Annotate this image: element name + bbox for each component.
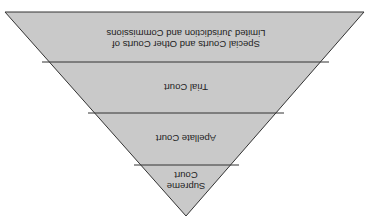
tier-supreme-court: Supreme Court	[146, 170, 226, 192]
tier-label-line: Limited Jurisdiction and Commissions	[66, 28, 306, 39]
tier-label-line: Special Courts and Other Courts of	[66, 39, 306, 50]
court-hierarchy-diagram: Supreme Court Apellate Court Trial Court…	[0, 0, 367, 224]
tier-appellate-court: Apellate Court	[126, 133, 246, 144]
tier-special-courts: Special Courts and Other Courts of Limit…	[66, 28, 306, 50]
tier-label-line: Trial Court	[126, 82, 246, 93]
tier-trial-court: Trial Court	[126, 82, 246, 93]
tier-label-line: Court	[146, 170, 226, 181]
tier-label-line: Supreme	[146, 181, 226, 192]
tier-label-line: Apellate Court	[126, 133, 246, 144]
